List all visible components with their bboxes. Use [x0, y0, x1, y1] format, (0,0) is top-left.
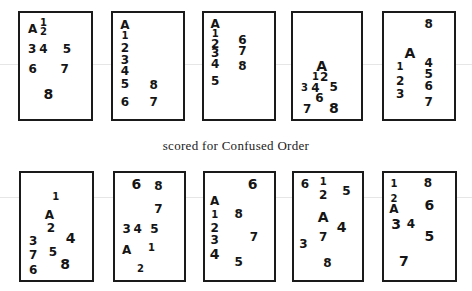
card-digit: 1	[121, 31, 128, 41]
card-digit: 8	[235, 208, 243, 220]
card-digit: 8	[323, 257, 331, 269]
card-digit: 6	[29, 264, 37, 276]
card-digit: 8	[329, 101, 339, 115]
card-digit: 7	[61, 63, 69, 75]
card-digit: 2	[320, 71, 328, 83]
card-digit: 5	[49, 246, 57, 258]
card-digit: 3	[396, 88, 404, 100]
card-1: 1A2345786	[19, 171, 94, 282]
card-digit: 6	[301, 178, 309, 190]
card-digit: 6	[132, 177, 142, 191]
card-digit: 7	[29, 249, 37, 261]
card-digit: 1	[52, 192, 59, 202]
card-label-a: A	[210, 195, 219, 207]
card-digit: 6	[248, 177, 258, 191]
card-digit: 6	[121, 96, 129, 108]
card-digit: 6	[425, 80, 433, 92]
card-digit: 4	[337, 220, 347, 234]
card-digit: 1	[312, 72, 319, 82]
card-label-a: A	[389, 203, 398, 215]
card-digit: 7	[319, 231, 327, 243]
card-1: A12345678	[18, 11, 93, 121]
card-digit: 8	[425, 18, 433, 30]
card-label-a: A	[28, 23, 37, 35]
card-digit: 4	[211, 58, 219, 70]
card-label-a: A	[404, 46, 415, 60]
card-digit: 6	[425, 198, 435, 212]
card-digit: 1	[320, 177, 327, 187]
card-2: A12345867	[111, 11, 185, 121]
card-2: 687345A12	[113, 171, 186, 282]
card-digit: 3	[391, 217, 401, 231]
card-4: 6125A4738	[292, 171, 364, 282]
card-5: 1826A3457	[382, 171, 457, 282]
card-digit: 5	[150, 223, 158, 235]
card-digit: 5	[235, 256, 243, 268]
card-digit: 5	[330, 81, 338, 93]
card-digit: 7	[399, 254, 409, 268]
card-digit: 1	[211, 210, 218, 220]
card-digit: 4	[66, 231, 76, 245]
card-digit: 2	[319, 189, 327, 201]
card-digit: 5	[425, 229, 435, 243]
card-digit: 7	[425, 96, 433, 108]
card-digit: 4	[121, 65, 129, 77]
card-3: A12345678	[202, 11, 276, 121]
card-digit: 5	[63, 43, 71, 55]
figure-caption: scored for Confused Order	[0, 138, 472, 154]
card-digit: 2	[47, 222, 55, 234]
card-digit: 2	[396, 75, 404, 87]
card-digit: 6	[29, 63, 37, 75]
card-digit: 1	[390, 179, 397, 189]
card-digit: 3	[301, 83, 308, 93]
card-digit: 7	[303, 103, 311, 115]
card-digit: 7	[250, 231, 258, 243]
card-digit: 4	[39, 43, 47, 55]
card-digit: 8	[238, 60, 246, 72]
card-digit: 8	[154, 180, 162, 192]
card-digit: 4	[134, 223, 142, 235]
card-digit: 2	[40, 27, 47, 37]
card-label-a: A	[318, 210, 329, 224]
card-digit: 7	[238, 45, 246, 57]
card-digit: 8	[149, 79, 157, 91]
card-digit: 4	[407, 218, 415, 230]
card-digit: 6	[315, 92, 323, 104]
card-digit: 3	[210, 234, 218, 246]
card-digit: 4	[210, 247, 220, 261]
card-3: 6A1823745	[203, 171, 276, 282]
card-digit: 8	[44, 87, 54, 101]
card-digit: 8	[60, 257, 70, 271]
card-digit: 3	[28, 43, 36, 55]
card-label-a: A	[45, 209, 54, 221]
card-digit: 2	[137, 264, 144, 274]
card-digit: 7	[154, 203, 162, 215]
card-5: 8A1425637	[382, 11, 456, 121]
card-digit: 3	[299, 238, 307, 250]
card-digit: 5	[342, 185, 350, 197]
card-digit: 3	[29, 235, 37, 247]
card-label-a: A	[120, 19, 129, 31]
card-digit: 5	[211, 75, 219, 87]
card-digit: 5	[121, 78, 129, 90]
card-digit: 1	[148, 243, 155, 253]
card-digit: 8	[424, 177, 432, 189]
card-digit: 2	[210, 222, 218, 234]
card-4: A12345678	[291, 11, 363, 121]
card-digit: 7	[149, 96, 157, 108]
card-digit: 1	[397, 62, 404, 72]
card-digit: 3	[123, 223, 131, 235]
card-label-a: A	[122, 244, 131, 256]
